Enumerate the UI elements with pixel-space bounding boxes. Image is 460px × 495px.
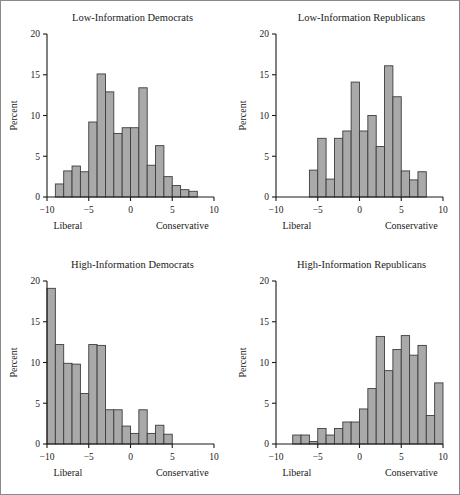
histogram-bar: [360, 131, 368, 197]
histogram-bar: [105, 409, 113, 443]
histogram-bar: [72, 166, 80, 197]
histogram-bar: [89, 344, 97, 443]
histogram-bar: [385, 66, 393, 197]
histogram-bar: [80, 393, 88, 444]
figure-container: Low-Information Democrats05101520−10−505…: [0, 0, 460, 495]
chart-title: High-Information Democrats: [71, 259, 194, 270]
histogram-bar: [385, 370, 393, 443]
chart-bottom-left: High-Information Democrats05101520−10−50…: [1, 248, 230, 494]
histogram-bar: [410, 355, 418, 444]
x-tick-label: 5: [399, 452, 404, 462]
histogram-bar: [376, 336, 384, 444]
bars-group: [309, 66, 426, 197]
histogram-bar: [393, 349, 401, 444]
y-tick-label: 10: [260, 111, 270, 121]
x-tick-label: 10: [209, 452, 219, 462]
x-tick-label: 10: [438, 452, 448, 462]
x-tick-label: 0: [128, 452, 133, 462]
histogram-bar: [351, 422, 359, 444]
axis-end-label-conservative: Conservative: [156, 220, 209, 231]
histogram-bar: [393, 97, 401, 197]
bars-group: [47, 288, 172, 444]
histogram-bar: [401, 335, 409, 443]
x-tick-label: 10: [209, 205, 219, 215]
histogram-bar: [55, 184, 63, 197]
histogram-bar: [105, 92, 113, 197]
panel-bottom-right: High-Information Republicans05101520−10−…: [230, 248, 459, 495]
x-tick-label: −10: [269, 205, 284, 215]
panel-bottom-left: High-Information Democrats05101520−10−50…: [1, 248, 230, 495]
histogram-bar: [72, 364, 80, 444]
histogram-bar: [114, 133, 122, 197]
y-tick-label: 20: [31, 276, 41, 286]
x-tick-label: 0: [357, 205, 362, 215]
x-tick-label: −5: [313, 452, 323, 462]
y-axis-label: Percent: [8, 347, 19, 377]
x-tick-label: 5: [170, 452, 175, 462]
chart-title: High-Information Republicans: [297, 259, 426, 270]
y-tick-label: 15: [31, 317, 41, 327]
chart-top-left: Low-Information Democrats05101520−10−505…: [1, 1, 230, 247]
y-tick-label: 0: [264, 192, 269, 202]
y-tick-label: 20: [260, 29, 270, 39]
axis-end-label-liberal: Liberal: [53, 220, 82, 231]
chart-title: Low-Information Republicans: [298, 12, 425, 23]
histogram-bar: [418, 172, 426, 197]
histogram-bar: [426, 415, 434, 444]
x-tick-label: 0: [357, 452, 362, 462]
histogram-bar: [114, 409, 122, 443]
histogram-bar: [326, 435, 334, 444]
y-tick-label: 10: [31, 111, 41, 121]
histogram-bar: [80, 172, 88, 197]
y-tick-label: 0: [35, 192, 40, 202]
histogram-bar: [435, 382, 443, 443]
y-tick-label: 20: [260, 276, 270, 286]
histogram-bar: [47, 288, 55, 444]
y-tick-label: 15: [260, 70, 270, 80]
histogram-bar: [368, 116, 376, 198]
histogram-bar: [401, 171, 409, 197]
histogram-bar: [139, 88, 147, 197]
histogram-bar: [318, 428, 326, 443]
histogram-bar: [410, 180, 418, 197]
histogram-bar: [334, 428, 342, 443]
axis-end-label-liberal: Liberal: [282, 467, 311, 478]
histogram-bar: [418, 345, 426, 444]
bars-group: [293, 335, 443, 443]
y-tick-label: 0: [35, 439, 40, 449]
histogram-bar: [97, 74, 105, 197]
histogram-bar: [147, 165, 155, 197]
histogram-bar: [343, 422, 351, 444]
histogram-bar: [360, 408, 368, 443]
x-tick-label: −5: [84, 452, 94, 462]
histogram-bar: [334, 138, 342, 197]
y-tick-label: 5: [264, 152, 269, 162]
y-tick-label: 20: [31, 29, 41, 39]
y-tick-label: 10: [260, 357, 270, 367]
histogram-bar: [376, 146, 384, 197]
histogram-bar: [156, 425, 164, 444]
x-tick-label: 5: [170, 205, 175, 215]
bars-group: [55, 74, 197, 197]
histogram-bar: [55, 344, 63, 443]
histogram-bar: [172, 186, 180, 197]
axis-end-label-conservative: Conservative: [385, 467, 438, 478]
x-tick-label: 5: [399, 205, 404, 215]
y-axis-label: Percent: [237, 100, 248, 130]
y-tick-label: 5: [264, 398, 269, 408]
histogram-bar: [301, 435, 309, 444]
histogram-bar: [64, 363, 72, 444]
x-tick-label: −5: [84, 205, 94, 215]
panel-top-left: Low-Information Democrats05101520−10−505…: [1, 1, 230, 248]
x-tick-label: −10: [269, 452, 284, 462]
y-axis-label: Percent: [8, 100, 19, 130]
panel-grid: Low-Information Democrats05101520−10−505…: [1, 1, 459, 494]
histogram-bar: [64, 171, 72, 197]
histogram-bar: [164, 177, 172, 197]
histogram-bar: [89, 122, 97, 197]
x-tick-label: −5: [313, 205, 323, 215]
histogram-bar: [181, 190, 189, 197]
histogram-bar: [318, 138, 326, 197]
histogram-bar: [368, 388, 376, 443]
x-tick-label: 0: [128, 205, 133, 215]
